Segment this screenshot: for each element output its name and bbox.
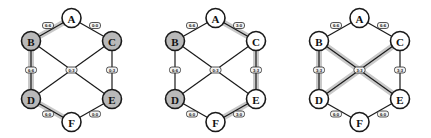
edge-weight-be: 0:3 (68, 68, 75, 73)
edge-weight-ac: 6:6 (380, 23, 387, 28)
node-label-d: D (27, 94, 35, 106)
panel-2: ABCDEF6:63:06:63:36:03:00:3 (144, 0, 287, 138)
edge-weight-ab: 6:6 (45, 23, 52, 28)
edge-weight-ce: 3:3 (253, 68, 260, 73)
node-label-c: C (252, 36, 260, 48)
node-label-d: D (315, 94, 323, 106)
edge-weight-bd: 6:6 (172, 68, 179, 73)
edge-weight-ce: 3:3 (397, 68, 404, 73)
edge-weight-bd: 6:6 (28, 68, 35, 73)
node-label-f: F (356, 117, 363, 129)
node-label-a: A (356, 13, 364, 25)
edge-weight-df: 6:0 (45, 112, 52, 117)
edge-weight-ac: 0:0 (92, 23, 99, 28)
edge-weight-bd: 3:3 (316, 68, 323, 73)
node-label-b: B (27, 36, 35, 48)
edge-weight-ef: 3:0 (236, 112, 243, 117)
node-label-a: A (68, 13, 76, 25)
node-label-f: F (212, 117, 219, 129)
node-label-b: B (315, 36, 323, 48)
edge-weight-be: 0:3 (212, 68, 219, 73)
edge-weight-ce: 0:3 (109, 68, 116, 73)
node-label-a: A (212, 13, 220, 25)
node-label-e: E (108, 94, 115, 106)
node-label-d: D (171, 94, 179, 106)
node-label-f: F (68, 117, 75, 129)
edge-weight-be: 3:3 (356, 68, 363, 73)
edge-weight-ef: 6:0 (380, 112, 387, 117)
node-label-e: E (396, 94, 403, 106)
panel-1: ABCDEF6:60:06:60:36:00:00:3 (0, 0, 143, 138)
edge-weight-ef: 0:0 (92, 112, 99, 117)
edge-weight-ab: 6:6 (333, 23, 340, 28)
graph-figure: ABCDEF6:60:06:60:36:00:00:3ABCDEF6:63:06… (0, 0, 431, 138)
node-label-e: E (252, 94, 259, 106)
edge-weight-df: 6:0 (189, 112, 196, 117)
edge-weight-ab: 6:6 (189, 23, 196, 28)
edge-weight-df: 6:0 (333, 112, 340, 117)
panel-3: ABCDEF6:66:63:33:36:06:03:3 (288, 0, 431, 138)
edge-weight-ac: 3:0 (236, 23, 243, 28)
node-label-b: B (171, 36, 179, 48)
node-label-c: C (396, 36, 404, 48)
node-label-c: C (108, 36, 116, 48)
